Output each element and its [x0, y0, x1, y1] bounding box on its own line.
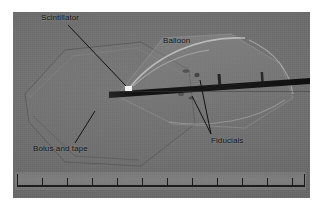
label-balloon: Balloon [163, 37, 190, 45]
label-scintillator: Scintillator [41, 14, 79, 22]
ruler-tick [42, 178, 43, 187]
figure-root: Scintillator Balloon Bolus and tape Fidu… [0, 0, 323, 207]
ruler-tick [242, 178, 243, 187]
radiograph-photo [13, 12, 310, 198]
scintillator-marker [125, 86, 132, 91]
measurement-ruler [15, 172, 306, 190]
ruler-baseline [17, 185, 304, 187]
ruler-tick [304, 174, 305, 187]
ruler-tick [192, 178, 193, 187]
ruler-tick [267, 178, 268, 187]
label-fiducials: Fiducials [211, 137, 243, 145]
ruler-band [15, 172, 306, 190]
label-bolus-and-tape: Bolus and tape [33, 145, 88, 153]
ruler-tick [117, 178, 118, 187]
ruler-tick [92, 178, 93, 187]
ruler-tick [17, 174, 18, 187]
ruler-tick [67, 178, 68, 187]
ruler-tick [292, 178, 293, 187]
ruler-tick [217, 178, 218, 187]
photo-feature-overlay [13, 12, 310, 198]
ruler-tick [167, 178, 168, 187]
ruler-tick [142, 178, 143, 187]
